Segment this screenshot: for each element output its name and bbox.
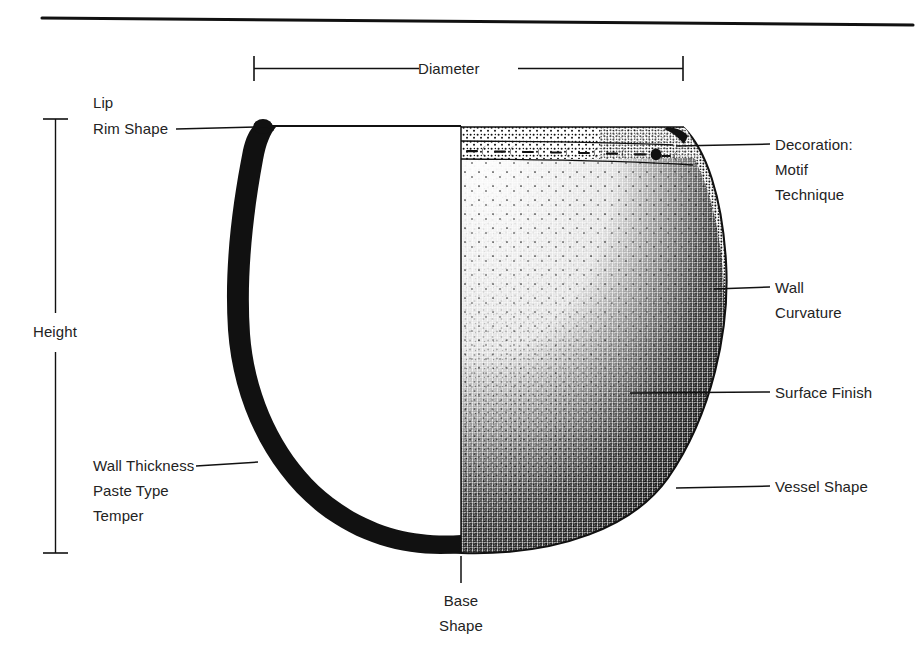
leader-surface-finish xyxy=(630,392,770,393)
diagram-canvas xyxy=(0,0,923,658)
label-shape: Shape xyxy=(411,613,511,638)
label-decoration: Decoration: xyxy=(775,132,853,157)
label-lip: Lip xyxy=(93,90,113,115)
label-height: Height xyxy=(33,319,77,344)
leader-rim-shape xyxy=(176,127,256,129)
label-surface-finish: Surface Finish xyxy=(775,380,872,405)
label-vessel-shape: Vessel Shape xyxy=(775,474,868,499)
top-horizontal-rule xyxy=(42,18,913,25)
vessel-attribute-diagram: Lip Rim Shape Height Diameter Wall Thick… xyxy=(0,0,923,658)
label-rim-shape: Rim Shape xyxy=(93,116,168,141)
leader-vessel-shape xyxy=(676,486,770,488)
label-diameter: Diameter xyxy=(418,56,480,81)
label-base: Base xyxy=(411,588,511,613)
label-technique: Technique xyxy=(775,182,844,207)
label-temper: Temper xyxy=(93,503,144,528)
vessel-section-left-half xyxy=(227,119,461,554)
label-paste-type: Paste Type xyxy=(93,478,169,503)
label-wall-thickness: Wall Thickness xyxy=(93,453,194,478)
label-motif: Motif xyxy=(775,157,808,182)
leader-wall-thickness xyxy=(196,462,258,466)
label-wall: Wall xyxy=(775,275,804,300)
label-curvature: Curvature xyxy=(775,300,842,325)
